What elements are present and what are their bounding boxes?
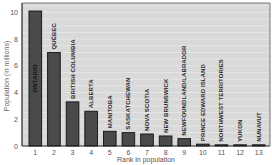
- bar-label: ONTARIO: [32, 64, 38, 92]
- bar-label: NEWFOUNDLAND/LABRADOR: [181, 45, 187, 136]
- x-tick-label: 5: [108, 149, 112, 156]
- bar-label: QUÉBEC: [50, 23, 57, 50]
- bar-label: SASKATCHEWAN: [125, 78, 131, 130]
- y-tick-label: 6: [14, 62, 18, 69]
- bar: [85, 111, 98, 146]
- bar-chart: ONTARIOQUÉBECBRITISH COLUMBIAALBERTAMANI…: [0, 0, 272, 165]
- x-tick-label: 2: [52, 149, 56, 156]
- bar-label: MANITOBA: [107, 95, 113, 129]
- y-tick-label: 2: [14, 116, 18, 123]
- bar-label: NOVA SCOTIA: [144, 88, 150, 131]
- bar-label: PRINCE EDWARD ISLAND: [200, 64, 206, 142]
- bar-label: NUNAVUT: [256, 112, 262, 142]
- x-axis-label: Rank in population: [117, 156, 175, 164]
- y-tick-label: 8: [14, 36, 18, 43]
- bar-label: NEW BRUNSWICK: [163, 78, 169, 133]
- bar: [48, 52, 61, 146]
- y-tick-label: 0: [14, 143, 18, 150]
- y-axis-label: Population (in millions): [3, 41, 11, 111]
- x-tick-label: 7: [145, 149, 149, 156]
- bar-label: ALBERTA: [88, 79, 94, 108]
- x-tick-label: 12: [236, 149, 244, 156]
- x-tick-label: 6: [126, 149, 130, 156]
- x-tick-label: 4: [89, 149, 93, 156]
- x-tick-label: 13: [255, 149, 263, 156]
- x-tick-label: 3: [71, 149, 75, 156]
- y-tick-labels: 0246810: [10, 9, 18, 150]
- x-tick-label: 9: [182, 149, 186, 156]
- bar: [178, 139, 191, 146]
- x-tick-label: 8: [164, 149, 168, 156]
- bar-label: YUKON: [237, 120, 243, 142]
- y-tick-label: 10: [10, 9, 18, 16]
- bar: [141, 134, 154, 146]
- bar: [103, 131, 116, 146]
- bar: [66, 102, 79, 146]
- bar: [122, 133, 135, 146]
- x-tick-labels: 12345678910111213: [33, 149, 262, 156]
- x-tick-label: 10: [199, 149, 207, 156]
- y-tick-label: 4: [14, 89, 18, 96]
- bar-label: BRITISH COLUMBIA: [70, 39, 76, 99]
- bar-label: NORTHWEST TERRITORIES: [218, 59, 224, 142]
- x-tick-label: 1: [33, 149, 37, 156]
- bar: [159, 136, 172, 146]
- x-tick-label: 11: [218, 149, 225, 156]
